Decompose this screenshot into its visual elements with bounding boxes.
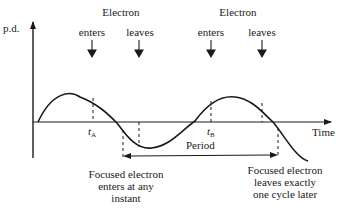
electron-heading-1: Electron (95, 6, 147, 18)
caption-right: Focused electron leaves exactly one cycl… (237, 164, 333, 200)
sine-wave (38, 94, 308, 161)
caption-left-line-2: enters at any (78, 180, 174, 192)
tA-subscript: A (91, 131, 96, 139)
y-axis-label: p.d. (3, 22, 20, 34)
tB-subscript: B (210, 131, 215, 139)
enters-label-1: enters (74, 26, 110, 38)
caption-left-line-3: instant (78, 192, 174, 204)
electron-heading-2: Electron (212, 6, 264, 18)
period-arrow (130, 155, 271, 156)
caption-right-line-1: Focused electron (237, 164, 333, 176)
caption-left-line-1: Focused electron (78, 168, 174, 180)
caption-right-line-2: leaves exactly (237, 176, 333, 188)
caption-right-line-3: one cycle later (237, 188, 333, 200)
caption-left: Focused electron enters at any instant (78, 168, 174, 204)
period-label: Period (186, 139, 215, 151)
leaves-label-2: leaves (244, 26, 280, 38)
enters-label-2: enters (193, 26, 229, 38)
x-axis-label: Time (312, 126, 335, 138)
leaves-label-1: leaves (122, 26, 158, 38)
time-mark-tA: tA (88, 125, 96, 141)
